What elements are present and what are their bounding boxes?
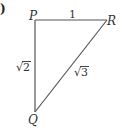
vertex-label-r: R bbox=[107, 15, 116, 27]
side-label-qr-radicand: 3 bbox=[80, 66, 89, 78]
vertex-label-p: P bbox=[29, 10, 37, 22]
side-label-pr: 1 bbox=[69, 9, 76, 20]
side-qr bbox=[35, 20, 107, 112]
right-triangle-figure: ) P R Q 1 √2 √3 bbox=[0, 0, 122, 133]
side-label-qr: √3 bbox=[74, 66, 89, 78]
side-label-pq: √2 bbox=[16, 61, 31, 73]
side-label-pq-radicand: 2 bbox=[22, 61, 31, 73]
vertex-label-q: Q bbox=[28, 114, 38, 126]
